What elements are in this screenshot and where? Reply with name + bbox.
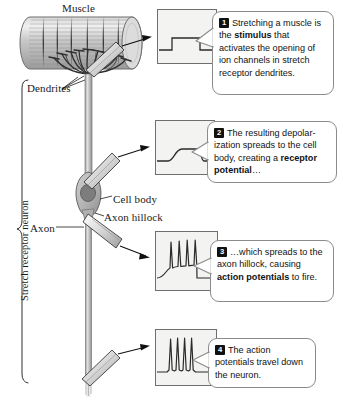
step-badge-2: 2 <box>214 128 224 138</box>
callout-step-2: 2 The resulting depolar­ization spreads … <box>207 121 337 183</box>
stimulus-trace <box>158 10 216 63</box>
callout-text-3: …which spreads to the axon hillock, caus… <box>217 246 326 283</box>
arrowhead-4 <box>140 344 150 350</box>
callout-text-2: The resulting depolar­ization spreads to… <box>214 127 329 177</box>
trace-box-3 <box>155 231 218 291</box>
trace-box-1 <box>157 9 217 64</box>
step-badge-4: 4 <box>215 345 225 355</box>
axon-shaft <box>85 74 92 397</box>
callout-step-3: 3 …which spreads to the axon hillock, ca… <box>210 240 334 302</box>
callout-step-4: 4 The action potentials travel down the … <box>208 338 316 388</box>
receptor-potential-trace <box>156 121 214 174</box>
arrowhead-1 <box>142 35 152 41</box>
axon-spike-trace <box>156 330 216 385</box>
callout-text-4: The action potentials travel down the ne… <box>215 344 308 381</box>
callout-step-1: 1 Stretching a muscle is the stimulus th… <box>212 11 334 95</box>
step-badge-1: 1 <box>219 18 229 28</box>
figure-canvas: Muscle Dendrites Cell body Axon hillock … <box>0 0 343 414</box>
label-cell-body: Cell body <box>113 193 157 205</box>
label-dendrites: Dendrites <box>27 82 71 94</box>
label-axon-hillock: Axon hillock <box>104 211 163 223</box>
label-axon: Axon <box>30 222 55 234</box>
callout-text-1: Stretching a muscle is the stimulus that… <box>219 17 326 79</box>
step-badge-3: 3 <box>217 247 227 257</box>
arrowhead-2 <box>140 145 150 151</box>
label-muscle: Muscle <box>62 2 95 14</box>
axon-hillock-trace <box>156 232 217 290</box>
label-stretch-receptor-neuron: Stretch receptor neuron <box>19 186 30 316</box>
trace-box-2 <box>155 120 215 175</box>
arrowhead-3 <box>139 253 150 259</box>
